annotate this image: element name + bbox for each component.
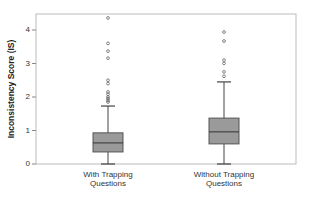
y-tick-label: 4	[26, 25, 31, 34]
y-tick-label: 3	[26, 59, 31, 68]
outlier-point	[107, 79, 110, 82]
box-1	[93, 17, 123, 164]
outlier-point	[107, 42, 110, 45]
y-tick-label: 2	[26, 92, 31, 101]
y-axis: 01234	[26, 25, 36, 168]
box-plot-chart: Inconsistency Score (IS) 01234 With Trap…	[0, 0, 311, 197]
outlier-point	[223, 59, 226, 62]
outlier-point	[223, 70, 226, 73]
outlier-point	[223, 75, 226, 78]
outlier-point	[223, 40, 226, 43]
y-tick-label: 1	[26, 126, 31, 135]
plot-frame	[36, 14, 296, 164]
outlier-point	[107, 57, 110, 60]
y-tick-label: 0	[26, 159, 31, 168]
boxes	[93, 17, 239, 164]
box-2	[209, 31, 239, 164]
x-category-label: Without TrappingQuestions	[194, 170, 254, 188]
outlier-point	[107, 17, 110, 20]
x-category-label: With TrappingQuestions	[83, 170, 132, 188]
iqr-box	[209, 118, 239, 144]
outlier-point	[107, 82, 110, 85]
x-axis-labels: With TrappingQuestionsWithout TrappingQu…	[83, 170, 254, 188]
outlier-point	[107, 50, 110, 53]
y-axis-label: Inconsistency Score (IS)	[6, 39, 16, 138]
y-axis-title: Inconsistency Score (IS)	[6, 39, 16, 138]
outlier-point	[223, 31, 226, 34]
outlier-point	[223, 62, 226, 65]
